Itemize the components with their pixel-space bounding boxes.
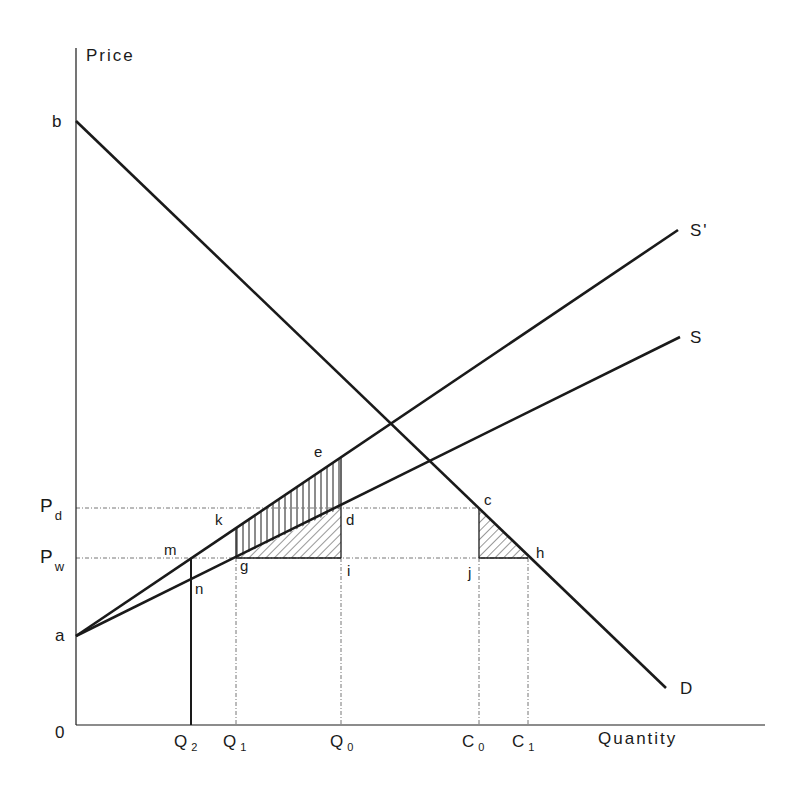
supply-intercept-label: a	[55, 627, 66, 644]
quantity-label-c1-sub: 1	[528, 741, 534, 753]
supply-shifted-curve	[76, 230, 678, 636]
demand-curve	[76, 121, 666, 688]
quantity-label-q0-main: Q	[330, 732, 343, 751]
demand-label: D	[680, 680, 694, 697]
quantity-label-q2: Q2	[174, 733, 197, 753]
quantity-label-q2-sub: 2	[191, 741, 197, 753]
price-label-pd-main: P	[40, 495, 55, 516]
quantity-label-c0: C0	[462, 733, 484, 753]
quantity-label-q1-main: Q	[223, 732, 236, 751]
point-label-i: i	[347, 563, 350, 578]
price-label-pd: Pd	[40, 496, 64, 522]
point-label-n: n	[195, 581, 203, 596]
point-label-k: k	[215, 512, 223, 527]
quantity-label-q1: Q1	[223, 733, 246, 753]
point-label-m: m	[164, 542, 177, 557]
supply-shifted-label: S'	[690, 222, 709, 239]
price-label-pw-main: P	[40, 546, 55, 567]
supply-curve	[76, 337, 680, 636]
point-label-c: c	[484, 492, 492, 507]
quantity-label-q0-sub: 0	[347, 741, 353, 753]
point-label-j: j	[468, 565, 471, 580]
demand-intercept-label: b	[52, 113, 63, 130]
price-label-pd-sub: d	[55, 508, 64, 523]
quantity-label-q2-main: Q	[174, 732, 187, 751]
point-label-d: d	[346, 512, 354, 527]
price-label-pw: Pw	[40, 547, 66, 573]
supply-label: S	[690, 329, 703, 346]
diagram-canvas	[0, 0, 802, 789]
quantity-label-q0: Q0	[330, 733, 353, 753]
quantity-label-c1: C1	[512, 733, 534, 753]
price-label-pw-sub: w	[55, 559, 66, 574]
quantity-label-c1-main: C	[512, 732, 524, 751]
point-label-e: e	[314, 444, 322, 459]
quantity-label-c0-main: C	[462, 732, 474, 751]
y-axis-label: Price	[86, 47, 135, 64]
point-label-g: g	[240, 558, 248, 573]
quantity-label-c0-sub: 0	[478, 741, 484, 753]
quantity-label-q1-sub: 1	[240, 741, 246, 753]
point-label-h: h	[536, 545, 544, 560]
origin-label: 0	[55, 724, 66, 741]
x-axis-label: Quantity	[598, 730, 677, 747]
